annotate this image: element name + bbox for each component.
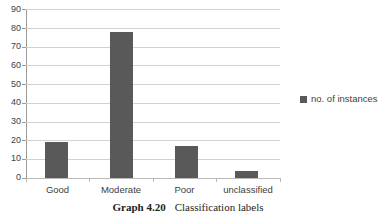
y-tick-label-0: 0 (1, 173, 21, 182)
x-tick-1 (89, 178, 90, 182)
legend-swatch-icon (300, 96, 307, 103)
x-label-moderate: Moderate (89, 184, 153, 195)
chart-legend: no. of instances (300, 94, 378, 104)
x-tick-3 (216, 178, 217, 182)
bar-moderate (110, 32, 133, 178)
caption-number: Graph 4.20 (112, 201, 165, 213)
x-label-unclassified: unclassified (216, 184, 280, 195)
y-tick-label-70: 70 (1, 42, 21, 51)
x-label-poor: Poor (153, 184, 216, 195)
y-tick-label-80: 80 (1, 24, 21, 33)
bars-layer (26, 9, 280, 178)
figure-caption: Graph 4.20Classification labels (0, 201, 376, 214)
bar-poor (175, 146, 198, 178)
x-tick-0 (26, 178, 27, 182)
bar-unclassified (235, 171, 258, 179)
y-tick-label-30: 30 (1, 117, 21, 126)
y-tick-label-60: 60 (1, 61, 21, 70)
y-tick-label-20: 20 (1, 136, 21, 145)
caption-text: Classification labels (175, 201, 264, 213)
x-label-good: Good (26, 184, 89, 195)
y-tick-label-50: 50 (1, 80, 21, 89)
y-tick-label-40: 40 (1, 98, 21, 107)
y-axis-labels: 90 80 70 60 50 40 30 20 10 0 (0, 0, 21, 214)
y-tick-label-10: 10 (1, 154, 21, 163)
plot-area (26, 9, 280, 178)
bar-good (45, 142, 68, 178)
y-tick-label-90: 90 (1, 5, 21, 14)
legend-entry-label: no. of instances (311, 94, 378, 104)
x-tick-4 (280, 178, 281, 182)
x-tick-2 (153, 178, 154, 182)
